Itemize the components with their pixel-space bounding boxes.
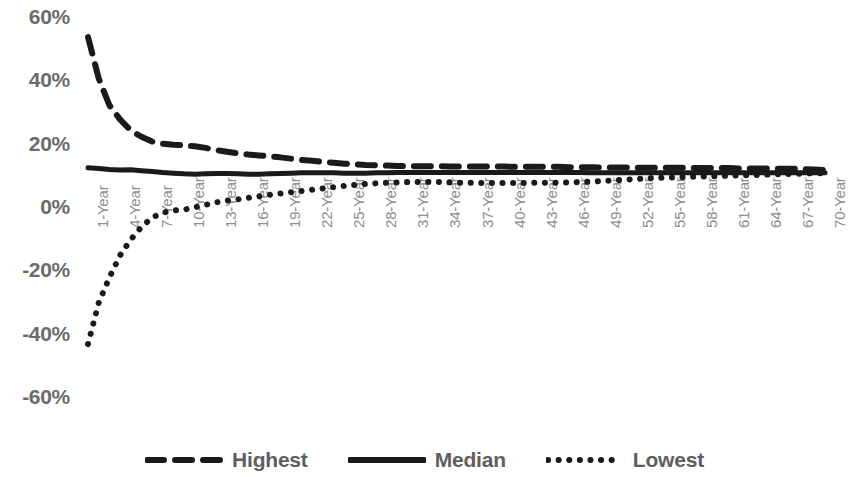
legend-item-lowest[interactable]: Lowest xyxy=(546,448,704,472)
legend-marker-dotted-icon xyxy=(546,453,624,467)
legend-marker-dashed-icon xyxy=(145,453,223,467)
legend-label: Lowest xyxy=(633,448,704,472)
series-line-highest xyxy=(88,37,825,170)
legend-marker-solid-icon xyxy=(348,453,426,467)
chart-container: 60%40%20%0%-20%-40%-60% 1-Year4-Year7-Ye… xyxy=(0,0,849,477)
legend-item-median[interactable]: Median xyxy=(348,448,506,472)
legend-item-highest[interactable]: Highest xyxy=(145,448,308,472)
chart-legend: HighestMedianLowest xyxy=(0,442,849,477)
legend-label: Highest xyxy=(232,448,308,472)
series-lines xyxy=(88,37,825,344)
plot-area xyxy=(0,0,849,477)
legend-label: Median xyxy=(435,448,506,472)
series-line-lowest xyxy=(88,173,825,344)
